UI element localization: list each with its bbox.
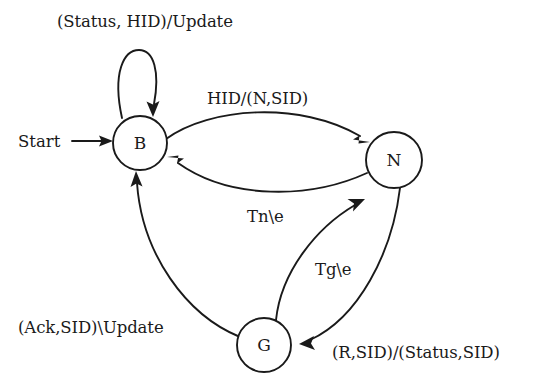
edge-n-to-b bbox=[167, 156, 367, 192]
edge-label-b-self: (Status, HID)/Update bbox=[57, 12, 233, 31]
state-node-n-label: N bbox=[387, 150, 402, 170]
edge-label-g-to-b: (Ack,SID)\Update bbox=[18, 318, 164, 337]
n-to-b-path bbox=[178, 163, 367, 192]
edge-label-g-to-n: Tg\e bbox=[315, 260, 352, 279]
n-to-g-arrow-head bbox=[299, 336, 315, 350]
edge-label-n-to-b: Tn\e bbox=[247, 207, 284, 226]
edge-g-to-b bbox=[131, 171, 241, 337]
g-to-n-arrow-head bbox=[348, 199, 366, 212]
edge-label-b-to-n: HID/(N,SID) bbox=[207, 89, 308, 108]
edge-b-self-loop bbox=[118, 50, 159, 118]
state-node-b-label: B bbox=[134, 133, 147, 153]
b-self-loop-arrow-head bbox=[147, 101, 160, 117]
state-diagram-canvas: Start (Status, HID)/Update HID/(N,SID) T… bbox=[0, 0, 535, 390]
edge-b-to-n bbox=[166, 112, 370, 143]
g-to-b-path bbox=[137, 183, 240, 337]
state-node-g-label: G bbox=[257, 335, 271, 355]
b-to-n-arrow-head bbox=[353, 136, 370, 144]
start-transition bbox=[72, 136, 113, 147]
state-machine-svg: Start (Status, HID)/Update HID/(N,SID) T… bbox=[0, 0, 535, 390]
n-to-b-arrow-head bbox=[167, 156, 184, 164]
b-to-n-path bbox=[166, 112, 360, 139]
state-node-n[interactable]: N bbox=[366, 132, 422, 188]
state-node-b[interactable]: B bbox=[113, 116, 167, 170]
edge-label-n-to-g: (R,SID)/(Status,SID) bbox=[332, 343, 500, 362]
start-label: Start bbox=[18, 132, 61, 151]
state-node-g[interactable]: G bbox=[237, 318, 291, 372]
